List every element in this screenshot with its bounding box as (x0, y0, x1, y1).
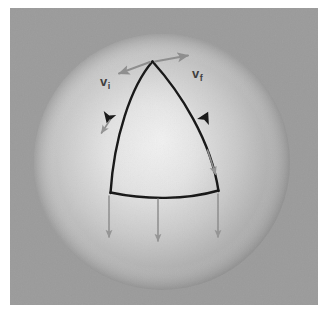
parallel-transport-diagram: vi vf (0, 0, 329, 321)
grain-overlay (10, 8, 318, 305)
figure-root: vi vf (0, 0, 329, 321)
